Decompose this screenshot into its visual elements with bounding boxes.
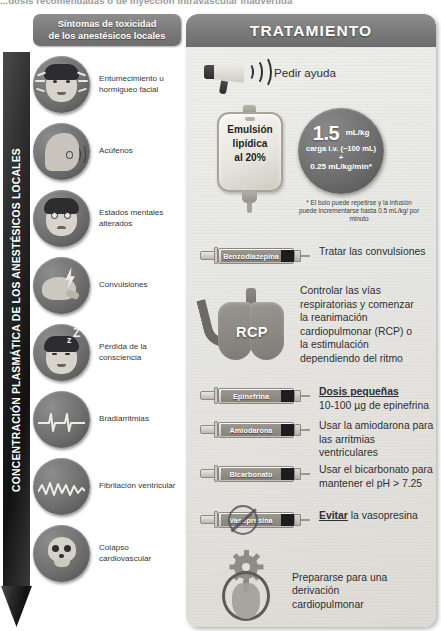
treatment-step-label: Usar el bicarbonato para mantener el pH … — [319, 462, 436, 490]
dose-badge: 1.5 mL/kg carga i.v. (~100 mL) + 0.25 mL… — [298, 108, 384, 194]
list-item: Entumecimiento u hormigueo facial — [33, 51, 181, 118]
dose-plus-sign: + — [298, 154, 384, 162]
list-item: Z z Pérdida de la consciencia — [33, 319, 181, 386]
treatment-panel-title: TRATAMIENTO — [186, 14, 436, 47]
list-item-label: Entumecimiento u hormigueo facial — [99, 74, 181, 95]
treatment-step-label: Dosis pequeñas 10-100 µg de epinefrina — [319, 384, 429, 412]
treatment-step-bypass: Prepararse para una derivación cardiopul… — [186, 548, 436, 627]
symptoms-panel: Síntomas de toxicidad de los anestésicos… — [33, 14, 181, 627]
syringe-drug-label: Bicarbonato — [221, 468, 281, 480]
symptoms-list: Entumecimiento u hormigueo facial Acúfen… — [33, 51, 181, 587]
lungs-airway-icon: RCP — [196, 280, 300, 380]
skull-cardiovascular-collapse-icon — [33, 525, 90, 582]
arrow-label: CONCENTRACIÓN PLASMÁTICA DE LOS ANESTÉSI… — [3, 52, 30, 588]
plasma-concentration-arrow: CONCENTRACIÓN PLASMÁTICA DE LOS ANESTÉSI… — [3, 52, 30, 627]
rcp-description: Controlar las vías respiratorias y comen… — [300, 280, 422, 384]
face-tingling-icon — [33, 56, 90, 113]
list-item-label: Bradiarritmias — [99, 414, 149, 425]
syringe-icon: Amiodarona — [200, 419, 308, 441]
top-caption: ...dosis recomendadas o de inyección int… — [0, 0, 441, 7]
call-for-help-label: Pedir ayuda — [274, 66, 336, 80]
cardiopulmonary-bypass-icon — [200, 553, 292, 627]
list-item-label: Convulsiones — [99, 280, 148, 291]
bypass-description: Prepararse para una derivación cardiopul… — [292, 571, 410, 612]
megaphone-icon — [200, 50, 274, 96]
syringe-icon: Epinefrina — [200, 385, 308, 407]
rcp-label: RCP — [226, 324, 278, 340]
syringe-icon: Benzodiazepina — [200, 245, 308, 267]
symptoms-header-line1: Síntomas de toxicidad — [58, 18, 157, 30]
treatment-step-benzodiazepine: Benzodiazepina Tratar las convulsiones — [186, 244, 436, 280]
list-item-label: Estados mentales alterados — [99, 208, 181, 229]
syringe-icon: Bicarbonato — [200, 463, 308, 485]
iv-bag-line2: lipídica — [221, 137, 279, 151]
vasopressin-avoid-word: Evitar — [319, 510, 348, 521]
ecg-trace-bradyarrhythmia — [38, 405, 85, 435]
list-item: Bradiarritmias — [33, 386, 181, 453]
ecg-trace-vfib — [38, 472, 85, 502]
altered-mental-state-face-icon — [33, 190, 90, 247]
dose-infusion-rate: 0.25 mL/kg/min* — [298, 162, 384, 171]
list-item: Estados mentales alterados — [33, 185, 181, 252]
sleeping-face-zzz-icon: Z z — [33, 324, 90, 381]
treatment-step-label: Evitar la vasopresina — [319, 508, 418, 523]
epinephrine-dose-detail: 10-100 µg de epinefrina — [319, 399, 429, 413]
treatment-step-vasopressin: Vasopresina Evitar la vasopresina — [186, 508, 436, 548]
list-item-label: Fibrilación ventricular — [99, 481, 175, 492]
syringe-drug-label: Epinefrina — [221, 390, 281, 402]
treatment-step-call-for-help: Pedir ayuda — [186, 47, 436, 99]
list-item: Fibrilación ventricular — [33, 453, 181, 520]
list-item-label: Colapso cardiovascular — [99, 543, 181, 564]
iv-bag-line3: al 20% — [221, 151, 279, 165]
syringe-drug-label: Benzodiazepina — [221, 250, 281, 262]
treatment-step-rcp: RCP Controlar las vías respiratorias y c… — [186, 280, 436, 384]
iv-bag-icon: Emulsión lipídica al 20% — [214, 105, 286, 213]
dose-footnote: * El bolo puede repetirse y la infusión … — [298, 199, 420, 222]
dose-unit: mL/kg — [346, 128, 370, 137]
list-item-label: Pérdida de la consciencia — [99, 342, 181, 363]
list-item: Acúfenos — [33, 118, 181, 185]
syringe-drug-label: Amiodarona — [221, 424, 281, 436]
treatment-step-label: Usar la amiodarona para las arritmias ve… — [319, 418, 436, 460]
treatment-panel: TRATAMIENTO Pedir ayuda — [186, 14, 436, 627]
symptoms-header-line2: de los anestésicos locales — [49, 30, 166, 42]
treatment-step-amiodarone: Amiodarona Usar la amiodarona para las a… — [186, 418, 436, 462]
treatment-step-lipid-emulsion: Emulsión lipídica al 20% 1.5 mL/kg carga… — [186, 99, 436, 244]
ear-tinnitus-icon — [33, 123, 90, 180]
list-item: Convulsiones — [33, 252, 181, 319]
treatment-step-epinephrine: Epinefrina Dosis pequeñas 10-100 µg de e… — [186, 384, 436, 418]
list-item-label: Acúfenos — [99, 146, 133, 157]
treatment-step-bicarbonate: Bicarbonato Usar el bicarbonato para man… — [186, 462, 436, 508]
vasopressin-detail: la vasopresina — [348, 510, 418, 521]
brain-seizure-icon — [33, 257, 90, 314]
infographic-root: ...dosis recomendadas o de inyección int… — [0, 0, 441, 631]
list-item: Colapso cardiovascular — [33, 520, 181, 587]
syringe-prohibited-icon: Vasopresina — [200, 509, 308, 531]
treatment-steps: Pedir ayuda Emulsión lipídica al 20% — [186, 47, 436, 627]
ecg-bradyarrhythmia-icon — [33, 391, 90, 448]
epinephrine-dose-heading: Dosis pequeñas — [319, 386, 399, 397]
ecg-ventricular-fibrillation-icon — [33, 458, 90, 515]
treatment-step-label: Tratar las convulsiones — [319, 244, 425, 259]
arrow-head-icon — [1, 586, 32, 627]
iv-bag-line1: Emulsión — [221, 123, 279, 137]
dose-value: 1.5 — [313, 122, 340, 144]
symptoms-panel-header: Síntomas de toxicidad de los anestésicos… — [33, 14, 181, 46]
